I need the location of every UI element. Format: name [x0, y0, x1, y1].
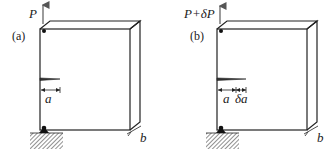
pin-support: [206, 126, 239, 149]
panel-b: P+δP (b) a δa b: [183, 6, 324, 149]
crack-length-label: a: [223, 91, 230, 106]
panel-tag: (b): [190, 29, 204, 43]
crack-length-label: a: [45, 91, 52, 106]
panel-a: P (a) a b: [12, 5, 147, 149]
load-label: P+δP: [183, 6, 215, 21]
figure-canvas: P (a) a b P+δP: [0, 0, 327, 158]
thickness-label: b: [317, 130, 324, 145]
specimen-block: [217, 21, 317, 130]
top-face: [217, 21, 317, 29]
panel-tag: (a): [12, 29, 25, 43]
crack: [217, 78, 246, 81]
load-point-dot: [219, 29, 223, 33]
ground-hatch: [206, 133, 239, 149]
specimen-block: [40, 21, 140, 130]
crack-increment-label: δa: [235, 91, 248, 106]
side-face: [130, 21, 140, 130]
top-face: [40, 21, 140, 29]
ground-hatch: [30, 133, 63, 149]
load-label: P: [28, 6, 37, 21]
side-face: [307, 21, 317, 130]
thickness-label: b: [140, 130, 147, 145]
load-point-dot: [42, 29, 46, 33]
pin-support: [30, 126, 63, 149]
crack: [40, 78, 60, 81]
